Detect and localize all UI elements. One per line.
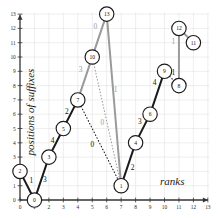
edge-label-7-10: 3: [79, 65, 83, 74]
edge-label-5-7: 2: [65, 107, 69, 116]
node-9[interactable]: 9: [157, 64, 171, 78]
node-4[interactable]: 4: [128, 136, 142, 150]
y-tick-9: 9: [13, 68, 16, 74]
y-tick-5: 5: [13, 126, 16, 132]
edge-9-to-8: [170, 76, 174, 80]
node-0[interactable]: 0: [27, 193, 41, 207]
node-10[interactable]: 10: [85, 50, 99, 64]
y-tick-4: 4: [13, 140, 16, 146]
y-axis-label: positions of suffixes: [24, 69, 36, 157]
plot-canvas: 012345678910111213012345678910111213 134…: [0, 0, 218, 218]
node-label-6: 6: [149, 111, 152, 117]
x-tick-4: 4: [76, 204, 79, 210]
edge-label-1-4: 2: [131, 163, 135, 172]
x-tick-7: 7: [120, 204, 123, 210]
x-tick-10: 10: [162, 204, 168, 210]
y-tick-10: 10: [10, 54, 16, 60]
node-2[interactable]: 2: [13, 164, 27, 178]
edge-label-10-1: 0: [101, 118, 105, 127]
node-label-4: 4: [134, 140, 137, 146]
suffix-array-plot: 012345678910111213012345678910111213 134…: [0, 0, 218, 218]
edge-label-13-1: 1: [114, 85, 118, 94]
x-tick-11: 11: [176, 204, 181, 210]
x-tick-2: 2: [48, 204, 51, 210]
edges: [23, 21, 188, 194]
x-tick-5: 5: [91, 204, 94, 210]
node-label-1: 1: [120, 183, 123, 189]
edge-label-4-6: 3: [138, 117, 142, 126]
node-3[interactable]: 3: [42, 150, 56, 164]
y-tick-8: 8: [13, 83, 16, 89]
x-tick-8: 8: [134, 204, 137, 210]
edge-label-3-5: 4: [51, 136, 55, 145]
y-tick-1: 1: [13, 183, 16, 189]
node-label-7: 7: [76, 97, 79, 103]
y-tick-7: 7: [13, 97, 16, 103]
node-11[interactable]: 11: [186, 36, 200, 50]
y-tick-6: 6: [13, 111, 16, 117]
node-label-2: 2: [19, 168, 22, 174]
edge-label-10-13: 0: [94, 22, 98, 31]
node-label-10: 10: [89, 54, 95, 60]
x-tick-9: 9: [149, 204, 152, 210]
y-tick-12: 12: [10, 25, 16, 31]
node-label-13: 13: [104, 11, 110, 17]
node-label-9: 9: [163, 68, 166, 74]
node-1[interactable]: 1: [114, 179, 128, 193]
edge-12-to-11: [184, 33, 188, 37]
x-tick-12: 12: [191, 204, 197, 210]
edge-label-0-3: 3: [43, 175, 47, 184]
edge-label-6-9: 4: [153, 78, 157, 87]
x-tick-13: 13: [205, 204, 211, 210]
node-label-11: 11: [191, 40, 197, 46]
node-8[interactable]: 8: [172, 78, 186, 92]
y-tick-11: 11: [11, 40, 16, 46]
node-6[interactable]: 6: [143, 107, 157, 121]
node-13[interactable]: 13: [100, 7, 114, 21]
edge-label-7-1: 0: [90, 140, 94, 149]
y-tick-0: 0: [13, 197, 16, 203]
node-12[interactable]: 12: [172, 21, 186, 35]
x-tick-6: 6: [105, 204, 108, 210]
edge-label-8-12: 1: [172, 37, 176, 46]
node-5[interactable]: 5: [56, 121, 70, 135]
edge-label-2-0: 1: [29, 176, 33, 185]
x-axis-label: ranks: [160, 175, 184, 187]
y-tick-13: 13: [10, 11, 16, 17]
y-tick-3: 3: [13, 154, 16, 160]
node-label-3: 3: [48, 154, 51, 160]
node-label-12: 12: [176, 25, 182, 31]
node-label-5: 5: [62, 126, 65, 132]
x-tick-3: 3: [62, 204, 65, 210]
node-7[interactable]: 7: [71, 93, 85, 107]
x-tick-0: 0: [19, 204, 22, 210]
node-label-0: 0: [33, 197, 36, 203]
node-label-8: 8: [178, 83, 181, 89]
